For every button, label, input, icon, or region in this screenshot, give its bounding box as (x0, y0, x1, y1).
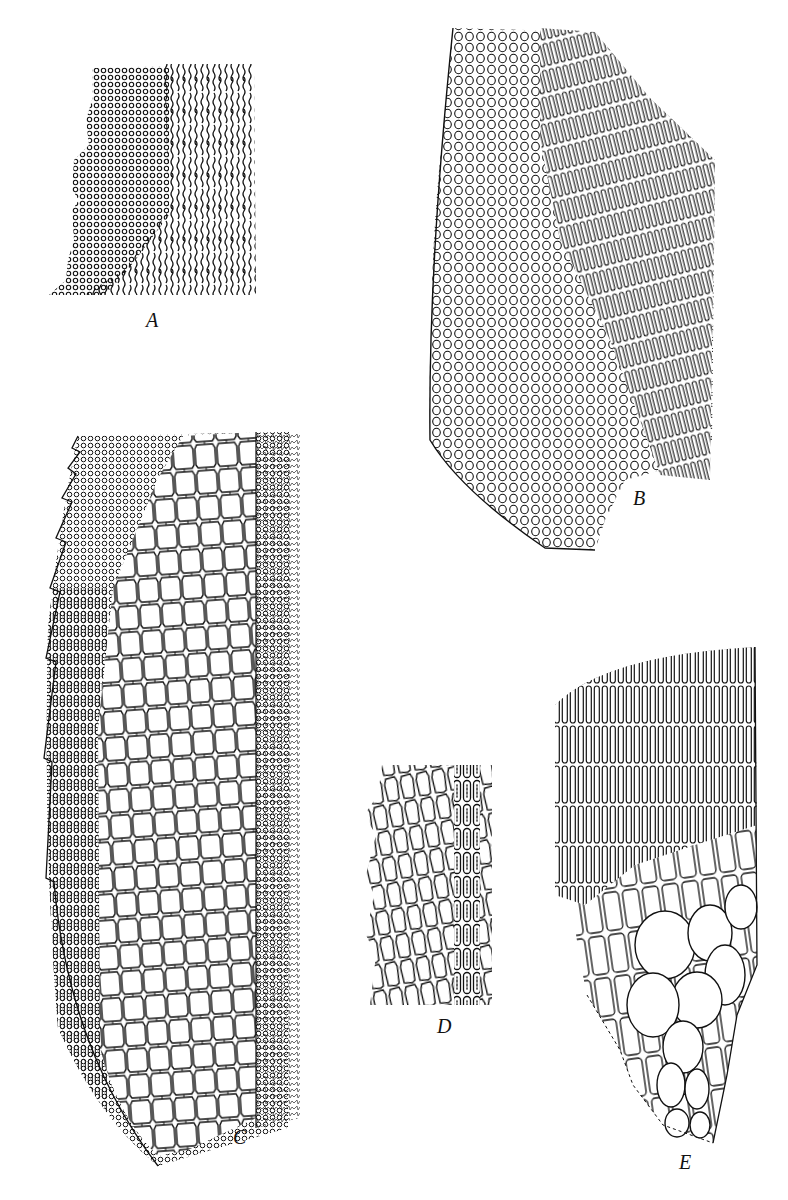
cell-network-a (44, 60, 259, 300)
panel-label-a: A (146, 310, 158, 330)
cell-network-b (420, 20, 720, 555)
panel-label-e: E (679, 1152, 691, 1172)
panel-b-drawing (420, 20, 720, 555)
panel-label-b: B (633, 488, 645, 508)
cell-network-d (362, 755, 512, 1010)
cell-network-c (38, 428, 300, 1168)
panel-d-drawing (362, 755, 512, 1010)
panel-label-c: C (233, 1127, 246, 1147)
panel-a-drawing (44, 60, 259, 300)
cell-network-e (545, 645, 765, 1155)
panel-e-drawing (545, 645, 765, 1155)
panel-c-drawing (38, 428, 300, 1168)
panel-label-d: D (437, 1016, 451, 1036)
